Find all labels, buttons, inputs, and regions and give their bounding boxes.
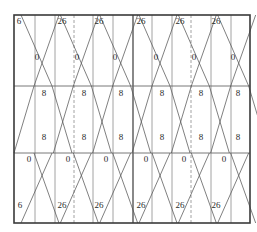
value-labels: 6262626262600000088888888888800000062626… xyxy=(17,16,241,210)
crossing-label: 0 xyxy=(231,52,236,62)
middle-lower-label: 8 xyxy=(236,132,241,142)
bottom-edge-label: 6 xyxy=(18,200,23,210)
top-edge-label: 26 xyxy=(212,16,222,26)
diagonal-line xyxy=(21,153,52,223)
diagonal-line xyxy=(152,15,177,86)
crossing-label: 0 xyxy=(154,52,159,62)
crossing-label: 0 xyxy=(182,154,187,164)
crossing-label: 0 xyxy=(27,154,32,164)
diagonal-line xyxy=(170,86,190,153)
diagonal-line xyxy=(231,15,256,86)
middle-lower-label: 8 xyxy=(119,132,124,142)
diagonal-line xyxy=(152,153,177,223)
middle-upper-label: 8 xyxy=(82,88,87,98)
middle-lower-label: 8 xyxy=(160,132,165,142)
middle-upper-label: 8 xyxy=(42,88,47,98)
diagonal-line xyxy=(191,153,216,223)
diagonal-line xyxy=(53,86,73,153)
diagonal-line xyxy=(93,86,113,153)
middle-upper-label: 8 xyxy=(236,88,241,98)
crossing-label: 0 xyxy=(192,52,197,62)
top-edge-label: 6 xyxy=(17,16,22,26)
crossing-label: 0 xyxy=(75,52,80,62)
diagonal-lines xyxy=(14,15,257,223)
crossing-label: 0 xyxy=(35,52,40,62)
diagonal-line xyxy=(100,15,131,86)
middle-upper-label: 8 xyxy=(119,88,124,98)
diagonal-line xyxy=(209,86,229,153)
middle-upper-label: 8 xyxy=(160,88,165,98)
diagonal-line xyxy=(131,86,151,153)
middle-lower-label: 8 xyxy=(42,132,47,142)
diagonal-line xyxy=(231,153,256,223)
diagonal-line xyxy=(113,15,138,86)
diagonal-line xyxy=(113,153,138,223)
crossing-label: 0 xyxy=(222,154,227,164)
crossing-label: 0 xyxy=(104,154,109,164)
top-edge-label: 26 xyxy=(176,16,186,26)
diagonal-line xyxy=(14,86,34,153)
middle-lower-label: 8 xyxy=(199,132,204,142)
diagonal-line xyxy=(91,86,111,153)
diagonal-line xyxy=(218,15,249,86)
diagonal-line xyxy=(171,86,191,153)
top-edge-label: 26 xyxy=(137,16,147,26)
crossing-label: 0 xyxy=(66,154,71,164)
bottom-edge-label: 26 xyxy=(95,200,105,210)
outer-frame xyxy=(14,15,250,223)
diagonal-line xyxy=(132,86,152,153)
horizontal-dividers xyxy=(14,86,250,153)
diagonal-line xyxy=(211,86,231,153)
diagonal-line xyxy=(21,15,52,86)
crossing-label: 0 xyxy=(144,154,149,164)
top-edge-label: 26 xyxy=(95,16,105,26)
bottom-edge-label: 26 xyxy=(212,200,222,210)
crossing-diagram: 6262626262600000088888888888800000062626… xyxy=(0,0,257,232)
vertical-gridlines xyxy=(35,15,231,223)
diagonal-line xyxy=(73,153,98,223)
crossing-label: 0 xyxy=(113,52,118,62)
middle-lower-label: 8 xyxy=(82,132,87,142)
bottom-edge-label: 26 xyxy=(137,200,147,210)
middle-upper-label: 8 xyxy=(199,88,204,98)
bottom-edge-label: 26 xyxy=(176,200,186,210)
bottom-edge-label: 26 xyxy=(58,200,68,210)
top-edge-label: 26 xyxy=(58,16,68,26)
